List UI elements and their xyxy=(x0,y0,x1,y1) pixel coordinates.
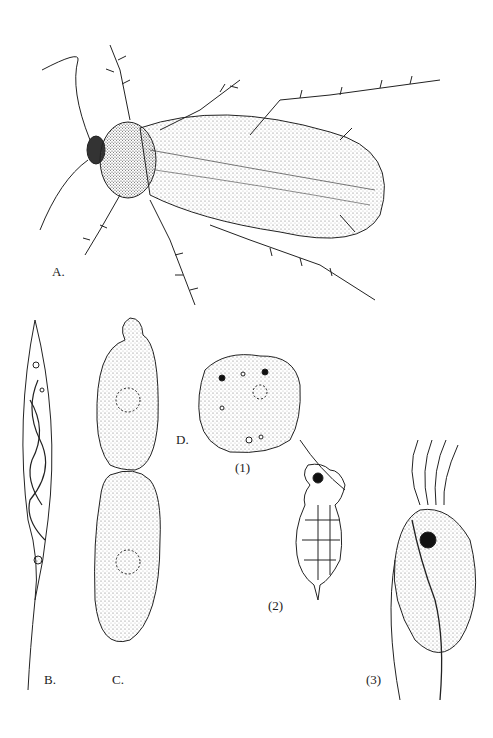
chambered-flagellate-drawing xyxy=(296,440,345,600)
plate-drawings xyxy=(0,0,493,738)
amoeboid-cell-drawing xyxy=(199,355,301,453)
label-d3: (3) xyxy=(366,672,381,688)
multiflagellate-drawing xyxy=(391,440,476,700)
cockroach-drawing xyxy=(40,45,440,305)
label-d1: (1) xyxy=(235,460,250,476)
label-d: D. xyxy=(176,432,189,448)
label-b: B. xyxy=(44,672,56,688)
elongated-protozoan-drawing xyxy=(23,320,52,690)
label-c: C. xyxy=(112,672,124,688)
label-d2: (2) xyxy=(268,598,283,614)
label-a: A. xyxy=(52,264,65,280)
dividing-cell-drawing xyxy=(95,318,161,642)
illustration-plate: A. B. C. D. (1) (2) (3) xyxy=(0,0,493,738)
